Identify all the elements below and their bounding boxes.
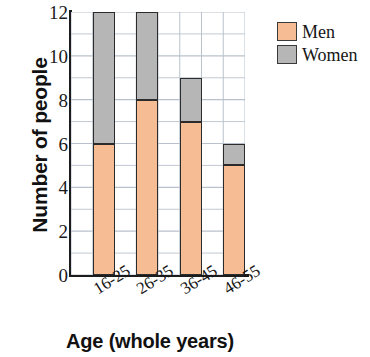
legend-label: Men bbox=[302, 23, 335, 41]
x-tick-label: 36-45 bbox=[177, 261, 221, 299]
x-axis-title: Age (whole years) bbox=[0, 330, 300, 353]
legend-item[interactable]: Men bbox=[277, 20, 369, 43]
legend-swatch-women bbox=[277, 45, 297, 64]
legend-label: Women bbox=[302, 46, 358, 64]
stacked-bar-chart: Number of people 024681012 16-2526-3536-… bbox=[0, 0, 370, 357]
legend-item[interactable]: Women bbox=[277, 43, 369, 66]
chart-legend: MenWomen bbox=[277, 20, 369, 66]
x-tick-label: 16-25 bbox=[90, 261, 134, 299]
x-tick-label: 26-35 bbox=[133, 261, 177, 299]
x-tick-label: 46-55 bbox=[220, 261, 264, 299]
legend-swatch-men bbox=[277, 22, 297, 41]
